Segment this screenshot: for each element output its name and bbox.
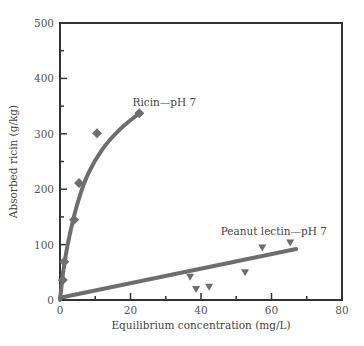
text-labels: 0204060800100200300400500Equilibrium con… bbox=[7, 17, 349, 331]
y-tick-label: 500 bbox=[34, 17, 54, 29]
x-tick-label: 40 bbox=[194, 304, 207, 316]
peanut-lectin-data-point bbox=[241, 269, 249, 276]
peanut-lectin-series-label: Peanut lectin—pH 7 bbox=[221, 225, 327, 237]
peanut-lectin-data-point bbox=[205, 284, 213, 291]
x-tick-label: 20 bbox=[124, 304, 137, 316]
peanut-lectin-fit-line bbox=[60, 249, 296, 298]
peanut-lectin-data-point bbox=[286, 239, 294, 246]
axis-ticks bbox=[60, 23, 342, 300]
x-axis-title: Equilibrium concentration (mg/L) bbox=[111, 319, 290, 331]
ricin-series-label: Ricin—pH 7 bbox=[133, 96, 197, 108]
x-tick-label: 80 bbox=[335, 304, 348, 316]
adsorption-chart: 0204060800100200300400500Equilibrium con… bbox=[0, 0, 364, 346]
peanut-lectin-data-point bbox=[258, 244, 266, 251]
ricin-fit-curve bbox=[60, 113, 139, 300]
peanut-lectin-data-point bbox=[192, 286, 200, 293]
fit-lines bbox=[60, 113, 296, 300]
y-tick-label: 0 bbox=[47, 294, 54, 306]
y-tick-label: 200 bbox=[34, 183, 54, 195]
ricin-data-point bbox=[92, 128, 102, 138]
x-tick-label: 0 bbox=[57, 304, 64, 316]
y-tick-label: 300 bbox=[34, 128, 54, 140]
y-tick-label: 100 bbox=[34, 239, 54, 251]
peanut-lectin-data-point bbox=[186, 274, 194, 281]
plot-border bbox=[60, 23, 342, 300]
y-axis-title: Absorbed ricin (g/kg) bbox=[7, 105, 19, 219]
x-tick-label: 60 bbox=[265, 304, 278, 316]
data-markers bbox=[58, 108, 294, 293]
plot-frame bbox=[60, 23, 342, 300]
y-tick-label: 400 bbox=[34, 72, 54, 84]
